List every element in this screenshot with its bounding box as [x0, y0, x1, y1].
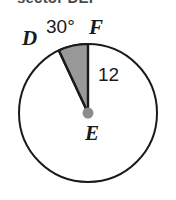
point-label-e: E — [85, 123, 99, 144]
angle-measure-label: 30° — [46, 17, 75, 36]
geometry-figure: sector DEF D F E 30° 12 — [0, 0, 176, 200]
radius-length-label: 12 — [98, 65, 119, 84]
center-point-dot — [83, 108, 94, 119]
point-label-f: F — [89, 17, 103, 38]
point-label-d: D — [22, 28, 37, 49]
